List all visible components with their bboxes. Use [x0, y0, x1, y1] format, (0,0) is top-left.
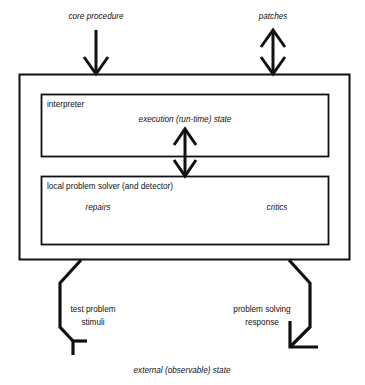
core-procedure-label: core procedure	[68, 12, 123, 22]
patches-label: patches	[259, 12, 288, 22]
test-problem-label: test problem	[70, 305, 115, 315]
diagram-canvas: core procedure patches interpreter execu…	[0, 0, 365, 385]
problem-solving-label: problem solving	[233, 305, 290, 315]
external-state-label: external (observable) state	[134, 366, 231, 376]
response-label: response	[245, 318, 279, 328]
repairs-label: repairs	[85, 203, 110, 213]
core-procedure-arrow	[84, 30, 108, 74]
stimuli-label: stimuli	[81, 318, 104, 328]
critics-label: critics	[267, 203, 288, 213]
patches-arrow	[261, 30, 285, 74]
interpreter-label: interpreter	[47, 100, 84, 110]
execution-state-arrow	[174, 129, 196, 176]
execution-state-label: execution (run-time) state	[139, 115, 232, 125]
problem-solving-response-connector	[289, 260, 318, 347]
diagram-vector-layer	[0, 0, 365, 385]
local-problem-solver-label: local problem solver (and detector)	[47, 182, 173, 192]
